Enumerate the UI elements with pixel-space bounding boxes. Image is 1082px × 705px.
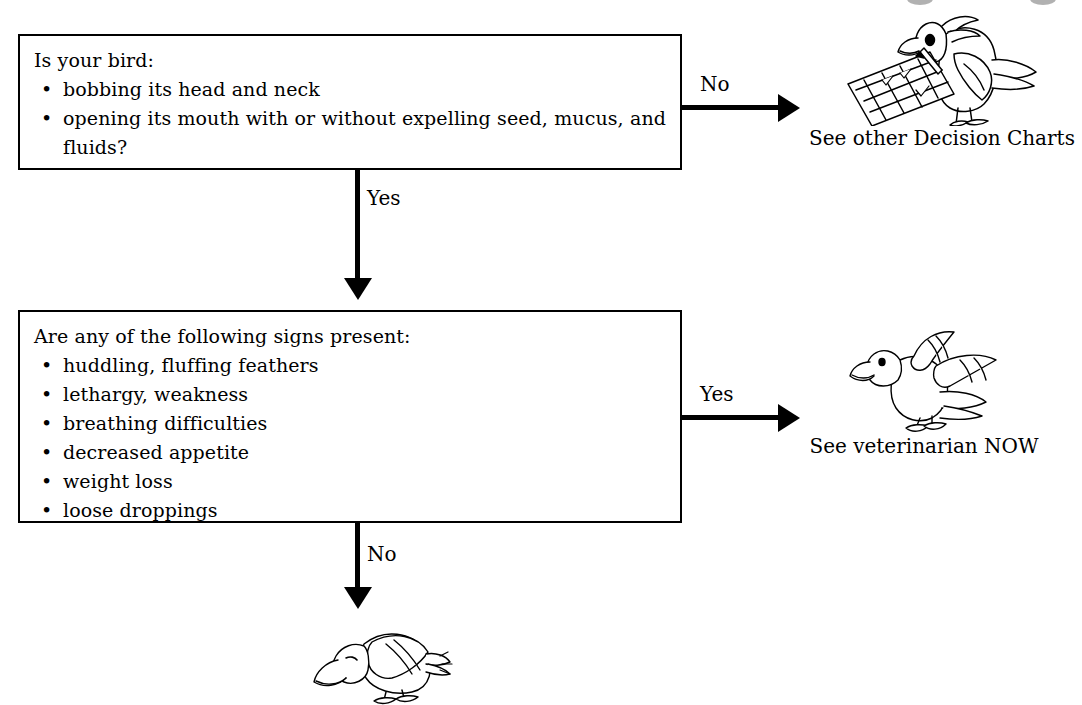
- list-item: • opening its mouth with or without expe…: [34, 104, 666, 162]
- bullet-icon: •: [41, 467, 52, 496]
- edge-label-box2-yes: Yes: [700, 383, 734, 405]
- outcome-see-other-decision-charts: See other Decision Charts: [808, 8, 1076, 150]
- edge-line-box2-no: [355, 523, 360, 589]
- list-item: • lethargy, weakness: [34, 380, 666, 409]
- decision-box-1-title: Is your bird:: [34, 46, 666, 75]
- bullet-icon: •: [41, 380, 52, 409]
- bird-flying-icon: [840, 330, 1008, 434]
- list-item-label: weight loss: [63, 470, 173, 492]
- list-item: • breathing difficulties: [34, 409, 666, 438]
- edge-arrowhead-box2-no: [344, 587, 372, 609]
- decision-chart-canvas: Is your bird: • bobbing its head and nec…: [0, 0, 1082, 705]
- bullet-icon: •: [41, 496, 52, 525]
- list-item: • decreased appetite: [34, 438, 666, 467]
- list-item-label: huddling, fluffing feathers: [63, 354, 319, 376]
- bullet-icon: •: [41, 351, 52, 380]
- bird-with-chart-icon: [842, 8, 1042, 126]
- list-item-label: opening its mouth with or without expell…: [63, 104, 666, 162]
- bullet-icon: •: [41, 409, 52, 438]
- list-item-label: lethargy, weakness: [63, 383, 248, 405]
- list-item: • loose droppings: [34, 496, 666, 525]
- decision-box-2-content: Are any of the following signs present: …: [20, 312, 680, 533]
- list-item: • weight loss: [34, 467, 666, 496]
- outcome-see-veterinarian-now: See veterinarian NOW: [808, 330, 1040, 458]
- decision-box-bird-symptoms: Is your bird: • bobbing its head and nec…: [18, 34, 682, 170]
- edge-label-box1-no: No: [700, 73, 730, 95]
- decision-box-illness-signs: Are any of the following signs present: …: [18, 310, 682, 523]
- decision-box-1-content: Is your bird: • bobbing its head and nec…: [20, 36, 680, 170]
- list-item-label: loose droppings: [63, 499, 218, 521]
- bullet-icon: •: [41, 75, 52, 104]
- list-item-label: decreased appetite: [63, 441, 249, 463]
- edge-arrowhead-box1-no: [778, 94, 800, 122]
- bird-hunched-icon: [310, 620, 460, 705]
- edge-line-box2-yes: [682, 415, 780, 420]
- edge-label-box1-yes: Yes: [367, 187, 401, 209]
- decision-box-2-title: Are any of the following signs present:: [34, 322, 666, 351]
- list-item-label: breathing difficulties: [63, 412, 267, 434]
- edge-arrowhead-box1-yes: [344, 278, 372, 300]
- outcome-label-veterinarian: See veterinarian NOW: [808, 434, 1040, 458]
- list-item: • bobbing its head and neck: [34, 75, 666, 104]
- bullet-icon: •: [41, 104, 52, 133]
- decision-box-1-bullet-list: • bobbing its head and neck • opening it…: [34, 75, 666, 162]
- bullet-icon: •: [41, 438, 52, 467]
- decision-box-2-bullet-list: • huddling, fluffing feathers • lethargy…: [34, 351, 666, 525]
- list-item-label: bobbing its head and neck: [63, 78, 320, 100]
- edge-line-box1-no: [682, 105, 780, 110]
- outcome-sick-bird: [290, 620, 480, 705]
- edge-arrowhead-box2-yes: [778, 404, 800, 432]
- list-item: • huddling, fluffing feathers: [34, 351, 666, 380]
- outcome-label-decision-charts: See other Decision Charts: [808, 126, 1076, 150]
- edge-label-box2-no: No: [367, 543, 397, 565]
- edge-line-box1-yes: [355, 170, 360, 280]
